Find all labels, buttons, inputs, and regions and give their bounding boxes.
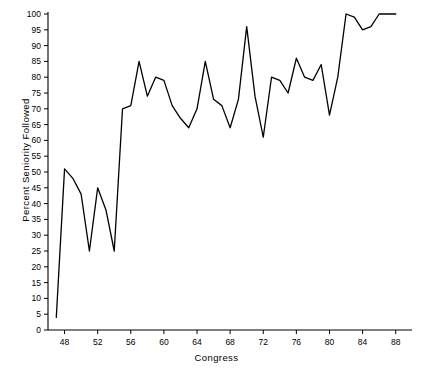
x-axis-ticks: 4852566064687276808488 <box>60 330 401 347</box>
chart-container: Percent Seniority Followed Congress 0510… <box>0 0 433 376</box>
svg-text:45: 45 <box>32 183 42 193</box>
svg-text:52: 52 <box>93 337 103 347</box>
svg-text:60: 60 <box>159 337 169 347</box>
svg-text:76: 76 <box>292 337 302 347</box>
svg-text:10: 10 <box>32 293 42 303</box>
svg-text:48: 48 <box>60 337 70 347</box>
svg-text:85: 85 <box>32 56 42 66</box>
svg-text:0: 0 <box>36 325 41 335</box>
svg-text:5: 5 <box>36 309 41 319</box>
svg-text:40: 40 <box>32 199 42 209</box>
svg-text:20: 20 <box>32 262 42 272</box>
svg-text:88: 88 <box>391 337 401 347</box>
svg-text:64: 64 <box>192 337 202 347</box>
y-axis-ticks: 0510152025303540455055606570758085909510… <box>27 9 48 335</box>
svg-text:80: 80 <box>32 72 42 82</box>
svg-text:68: 68 <box>225 337 235 347</box>
svg-text:75: 75 <box>32 88 42 98</box>
svg-text:60: 60 <box>32 135 42 145</box>
svg-text:15: 15 <box>32 278 42 288</box>
svg-text:100: 100 <box>27 9 41 19</box>
svg-text:90: 90 <box>32 41 42 51</box>
svg-text:84: 84 <box>358 337 368 347</box>
svg-text:65: 65 <box>32 120 42 130</box>
svg-text:25: 25 <box>32 246 42 256</box>
svg-text:55: 55 <box>32 151 42 161</box>
svg-text:80: 80 <box>325 337 335 347</box>
svg-text:95: 95 <box>32 25 42 35</box>
svg-text:72: 72 <box>259 337 269 347</box>
svg-text:30: 30 <box>32 230 42 240</box>
svg-text:50: 50 <box>32 167 42 177</box>
svg-text:35: 35 <box>32 214 42 224</box>
data-series-line <box>56 14 395 317</box>
line-chart-plot: 0510152025303540455055606570758085909510… <box>0 0 433 376</box>
svg-text:70: 70 <box>32 104 42 114</box>
svg-text:56: 56 <box>126 337 136 347</box>
